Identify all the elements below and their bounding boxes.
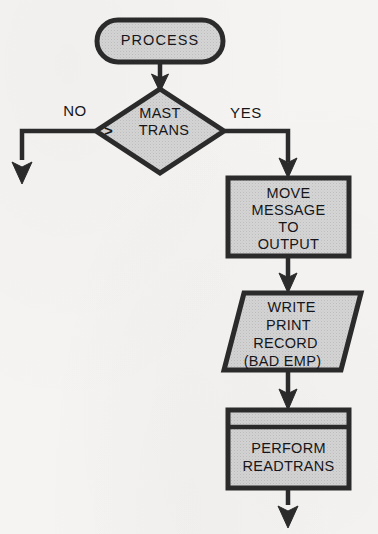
connector-move-to-write: [279, 256, 297, 293]
node-write-label-line2: PRINT: [228, 317, 349, 334]
node-move-label-line1: MOVE: [228, 185, 349, 202]
branch-label-yes: YES: [222, 105, 270, 121]
node-process-label: PROCESS: [97, 32, 223, 48]
connector-yes-branch: [225, 131, 297, 178]
node-decision-label-line1: MAST: [108, 105, 212, 122]
connector-write-to-perform: [279, 372, 297, 410]
node-perform-label-line2: READTRANS: [228, 458, 349, 475]
node-decision-operator: >: [104, 122, 113, 139]
node-move-label-line4: OUTPUT: [228, 236, 349, 253]
node-perform-label-line1: PERFORM: [228, 440, 349, 457]
flowchart-page: PROCESS MAST TRANS > NO YES MOVE MESSAGE…: [0, 0, 378, 534]
node-write-label-line4: (BAD EMP): [222, 353, 343, 370]
node-write-label-line1: WRITE: [231, 299, 352, 316]
node-move-label-line3: TO: [228, 219, 349, 236]
node-decision-label-line2: TRANS: [112, 122, 216, 139]
branch-label-no: NO: [52, 103, 98, 119]
node-write-label-line3: RECORD: [225, 335, 346, 352]
node-move-label-line2: MESSAGE: [228, 202, 349, 219]
connector-no-branch: [12, 131, 95, 184]
connector-perform-to-exit: [278, 490, 298, 528]
